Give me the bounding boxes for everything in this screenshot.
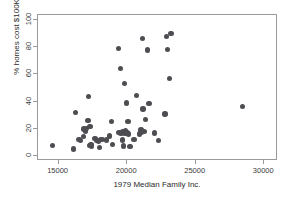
data-point — [107, 133, 112, 138]
data-point — [140, 36, 145, 41]
x-tick — [58, 160, 59, 164]
data-point — [142, 129, 147, 134]
scatter-plot-figure: 15000200002500030000 020406080100 1979 M… — [0, 0, 294, 198]
data-point — [87, 124, 92, 129]
data-point — [240, 104, 245, 109]
data-point — [110, 142, 115, 147]
data-point — [156, 138, 161, 143]
y-tick-label: 60 — [24, 66, 33, 80]
x-axis-title: 1979 Median Family Inc. — [37, 180, 277, 189]
data-point — [122, 81, 127, 86]
x-tick-label: 20000 — [116, 166, 137, 175]
x-tick — [126, 160, 127, 164]
y-tick — [33, 19, 37, 20]
y-tick-label: 20 — [24, 121, 33, 135]
data-point — [145, 47, 150, 52]
data-point — [131, 137, 136, 142]
data-point — [127, 144, 132, 149]
data-point — [120, 137, 125, 142]
y-tick — [33, 101, 37, 102]
y-axis-title: % homes cost $100K+ — [12, 0, 21, 95]
y-tick-label: 80 — [24, 39, 33, 53]
data-point — [165, 47, 170, 52]
data-point — [89, 143, 94, 148]
data-point — [81, 134, 86, 139]
data-point — [152, 130, 157, 135]
data-point — [124, 100, 129, 105]
data-point — [143, 117, 148, 122]
data-points-layer — [38, 15, 276, 159]
data-point — [73, 110, 78, 115]
data-point — [125, 119, 130, 124]
data-point — [168, 31, 173, 36]
data-point — [50, 143, 55, 148]
x-tick — [263, 160, 264, 164]
data-point — [71, 146, 76, 151]
data-point — [126, 131, 131, 136]
data-point — [85, 118, 90, 123]
data-point — [97, 145, 102, 150]
data-point — [118, 66, 123, 71]
data-point — [140, 106, 145, 111]
x-tick-label: 30000 — [253, 166, 274, 175]
data-point — [134, 93, 139, 98]
y-tick — [33, 155, 37, 156]
y-tick-label: 0 — [24, 148, 33, 162]
y-tick-label: 100 — [24, 12, 33, 26]
data-point — [116, 46, 121, 51]
data-point — [162, 111, 167, 116]
x-tick — [195, 160, 196, 164]
x-tick-label: 15000 — [47, 166, 68, 175]
data-point — [167, 76, 172, 81]
data-point — [121, 143, 126, 148]
y-tick — [33, 128, 37, 129]
data-point — [86, 94, 91, 99]
x-tick-label: 25000 — [184, 166, 205, 175]
plot-area — [37, 14, 277, 160]
data-point — [109, 119, 114, 124]
data-point — [146, 101, 151, 106]
y-tick-label: 40 — [24, 94, 33, 108]
y-tick — [33, 73, 37, 74]
y-tick — [33, 46, 37, 47]
